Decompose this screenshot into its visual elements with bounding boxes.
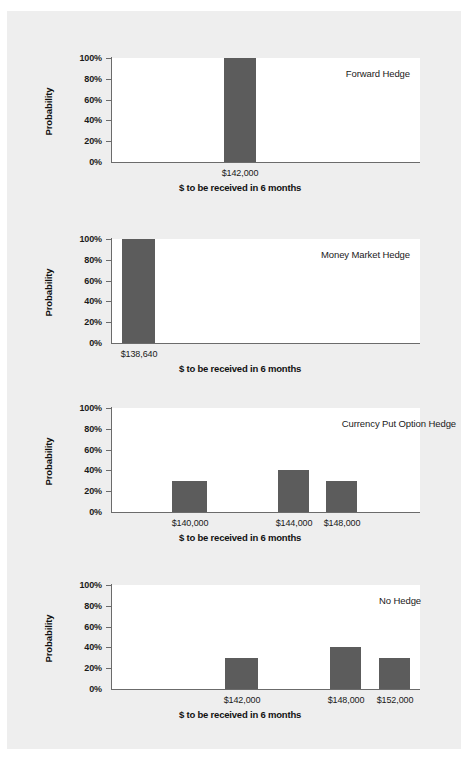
y-tick-mark xyxy=(106,141,111,142)
y-tick-mark xyxy=(106,281,111,282)
bar xyxy=(326,481,357,512)
y-tick-label: 80% xyxy=(56,256,102,265)
y-tick-label: 100% xyxy=(56,404,102,413)
y-tick-label: 80% xyxy=(56,75,102,84)
y-axis-line xyxy=(111,57,112,163)
x-axis-line xyxy=(111,343,420,344)
x-axis-line xyxy=(111,162,420,163)
y-axis-line xyxy=(111,584,112,690)
y-tick-mark xyxy=(106,58,111,59)
y-tick-label: 60% xyxy=(56,623,102,632)
x-tick-label: $142,000 xyxy=(182,695,302,705)
x-tick-label: $138,640 xyxy=(79,349,199,359)
y-tick-label: 0% xyxy=(56,508,102,517)
x-axis-title: $ to be received in 6 months xyxy=(110,363,370,374)
y-tick-label: 20% xyxy=(56,318,102,327)
bar xyxy=(172,481,207,512)
y-tick-mark xyxy=(106,585,111,586)
y-tick-mark xyxy=(106,491,111,492)
chart-currency-put-option-hedge: 100% 80% 60% 40% 20% 0% Probability Curr… xyxy=(0,380,468,570)
bar xyxy=(379,658,410,689)
chart-title: Forward Hedge xyxy=(346,68,410,79)
y-tick-mark xyxy=(106,470,111,471)
chart-title: No Hedge xyxy=(379,595,421,606)
y-tick-label: 0% xyxy=(56,339,102,348)
y-tick-label: 40% xyxy=(56,116,102,125)
y-tick-mark xyxy=(106,79,111,80)
y-tick-label: 60% xyxy=(56,446,102,455)
y-axis-title: Probability xyxy=(43,589,54,689)
y-tick-label: 40% xyxy=(56,466,102,475)
y-tick-mark xyxy=(106,260,111,261)
y-axis-line xyxy=(111,407,112,513)
x-axis-title: $ to be received in 6 months xyxy=(110,532,370,543)
y-tick-mark xyxy=(106,627,111,628)
y-axis-title: Probability xyxy=(43,412,54,512)
x-axis-title: $ to be received in 6 months xyxy=(110,709,370,720)
chart-no-hedge: 100% 80% 60% 40% 20% 0% Probability No H… xyxy=(0,570,468,758)
plot-area-no-hedge xyxy=(112,585,420,689)
bar xyxy=(278,470,309,512)
y-tick-mark xyxy=(106,668,111,669)
y-tick-label: 40% xyxy=(56,643,102,652)
y-tick-label: 20% xyxy=(56,487,102,496)
chart-title: Currency Put Option Hedge xyxy=(342,418,456,429)
y-tick-label: 60% xyxy=(56,96,102,105)
chart-money-market-hedge: 100% 80% 60% 40% 20% 0% Probability Mone… xyxy=(0,190,468,380)
y-axis-title: Probability xyxy=(43,243,54,343)
y-axis-title: Probability xyxy=(43,62,54,162)
y-tick-mark xyxy=(106,301,111,302)
y-tick-mark xyxy=(106,239,111,240)
y-tick-label: 100% xyxy=(56,235,102,244)
chart-title: Money Market Hedge xyxy=(321,249,410,260)
x-tick-label: $152,000 xyxy=(335,695,455,705)
x-axis-line xyxy=(111,689,420,690)
y-axis-line xyxy=(111,238,112,344)
y-tick-label: 80% xyxy=(56,602,102,611)
y-tick-mark xyxy=(106,322,111,323)
y-tick-mark xyxy=(106,429,111,430)
y-tick-label: 80% xyxy=(56,425,102,434)
y-tick-label: 20% xyxy=(56,664,102,673)
y-tick-label: 100% xyxy=(56,54,102,63)
bar xyxy=(224,58,256,162)
y-tick-label: 40% xyxy=(56,297,102,306)
y-tick-mark xyxy=(106,450,111,451)
x-axis-line xyxy=(111,512,420,513)
x-tick-label: $142,000 xyxy=(180,168,300,178)
y-tick-mark xyxy=(106,408,111,409)
y-tick-mark xyxy=(106,120,111,121)
bar xyxy=(225,658,258,689)
y-tick-mark xyxy=(106,606,111,607)
x-tick-label: $148,000 xyxy=(282,518,402,528)
y-tick-mark xyxy=(106,100,111,101)
y-tick-label: 20% xyxy=(56,137,102,146)
bar xyxy=(330,647,361,689)
chart-forward-hedge: 100% 80% 60% 40% 20% 0% Probability Forw… xyxy=(0,0,468,190)
y-tick-label: 0% xyxy=(56,158,102,167)
figure-root: 100% 80% 60% 40% 20% 0% Probability Forw… xyxy=(0,0,468,758)
y-tick-label: 0% xyxy=(56,685,102,694)
y-tick-label: 100% xyxy=(56,581,102,590)
y-tick-label: 60% xyxy=(56,277,102,286)
y-tick-mark xyxy=(106,647,111,648)
bar xyxy=(122,239,155,343)
x-tick-label: $140,000 xyxy=(130,518,250,528)
